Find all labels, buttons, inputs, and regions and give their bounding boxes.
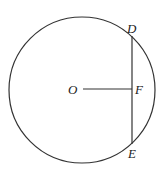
label-o: O [68, 82, 78, 97]
label-e: E [127, 146, 136, 161]
label-d: D [126, 21, 137, 36]
label-f: F [134, 82, 144, 97]
circle-diagram: O F D E [0, 0, 161, 173]
circle [9, 17, 155, 163]
